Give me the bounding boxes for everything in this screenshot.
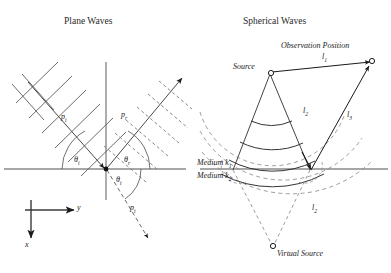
figure-canvas: Plane Waves Spherical Waves pi pr pt θi …	[0, 0, 391, 273]
panel-title-spherical-waves: Spherical Waves	[243, 16, 306, 26]
reflected-wavefronts	[104, 81, 192, 182]
label-path-l2-lower: l2	[312, 203, 317, 214]
label-incident-pressure: pi	[61, 112, 67, 123]
label-medium-k2: Medium k2	[197, 171, 232, 182]
source-cone-rays	[233, 74, 310, 170]
path-l3-ray	[311, 66, 369, 170]
virtual-source-point	[270, 243, 275, 248]
label-angle-transmitted: θt	[116, 175, 122, 186]
label-angle-reflected: θr	[124, 155, 130, 166]
incident-wavefronts	[16, 62, 126, 176]
label-path-l1: l1	[322, 52, 327, 63]
coordinate-axes	[25, 200, 74, 238]
panel-title-plane-waves: Plane Waves	[64, 16, 112, 26]
label-virtual-source: Virtual Source	[277, 249, 323, 258]
transmitted-ray	[107, 170, 148, 238]
label-reflected-pressure: pr	[121, 110, 127, 121]
axis-label-y: y	[77, 203, 81, 212]
label-path-l2: l2	[303, 106, 308, 117]
incidence-point	[104, 167, 109, 172]
axis-label-x: x	[25, 240, 29, 249]
label-transmitted-pressure: pt	[130, 203, 136, 214]
virtual-source-rays	[233, 170, 310, 245]
label-angle-incident: θi	[74, 155, 80, 166]
observation-point	[369, 58, 374, 63]
source-point	[268, 70, 273, 75]
incident-ray	[28, 82, 104, 168]
path-l1-ray	[272, 62, 370, 72]
label-path-l3: l3	[347, 110, 352, 121]
reflected-ray	[107, 78, 182, 168]
label-observation-position: Observation Position	[281, 41, 349, 50]
incident-wavefronts-extra	[12, 74, 54, 120]
label-medium-k1: Medium k1	[197, 158, 232, 169]
label-source: Source	[233, 62, 255, 71]
